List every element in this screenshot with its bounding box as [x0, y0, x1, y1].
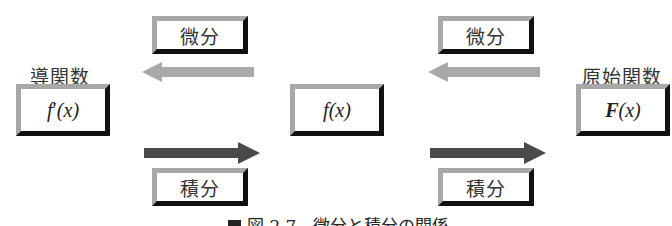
- primitive-F: F: [605, 99, 618, 122]
- left-differentiate-label: 微分: [180, 22, 220, 49]
- right-differentiate-box: 微分: [438, 16, 534, 54]
- figure-square-icon: [228, 220, 241, 226]
- primitive-box: F(x): [576, 84, 670, 136]
- left-differentiate-arrow-icon: [140, 60, 256, 84]
- figure-caption-text: 図 2.7 微分と積分の関係: [247, 216, 449, 226]
- right-integrate-arrow-icon: [428, 141, 548, 165]
- left-integrate-arrow-icon: [142, 141, 262, 165]
- derivative-arg: (x): [57, 99, 79, 122]
- left-differentiate-box: 微分: [152, 16, 248, 54]
- primitive-arg: (x): [619, 99, 641, 122]
- left-integrate-label: 積分: [180, 174, 220, 201]
- right-differentiate-label: 微分: [466, 22, 506, 49]
- derivative-box: f′(x): [16, 84, 110, 136]
- right-differentiate-arrow-icon: [426, 60, 542, 84]
- right-integrate-box: 積分: [438, 168, 534, 206]
- left-integrate-box: 積分: [152, 168, 248, 206]
- function-box: f(x): [290, 84, 384, 136]
- figure-caption: 図 2.7 微分と積分の関係: [228, 212, 449, 226]
- function-arg: (x): [329, 99, 351, 122]
- right-integrate-label: 積分: [466, 174, 506, 201]
